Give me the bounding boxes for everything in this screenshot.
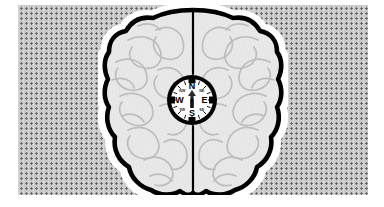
compass-label-northeast: NE xyxy=(199,89,205,93)
compass-label-southeast: SE xyxy=(199,108,204,112)
compass-label-east: E xyxy=(201,95,207,105)
compass-label-south: S xyxy=(189,108,195,118)
compass-label-west: W xyxy=(175,95,184,105)
compass-label-northwest: NW xyxy=(179,89,186,93)
illustration-canvas: N E S W NW NE SE SW xyxy=(0,0,384,207)
compass-rose: N E S W NW NE SE SW xyxy=(166,74,218,126)
compass-label-north: N xyxy=(189,81,196,91)
compass-pivot xyxy=(191,99,194,102)
compass-label-southwest: SW xyxy=(179,108,185,112)
